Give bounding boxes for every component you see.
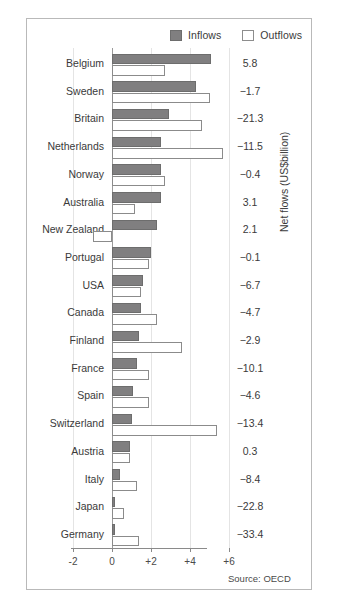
bar-outflow xyxy=(112,259,149,270)
chart-row: Canada−4.7 xyxy=(0,299,339,330)
bar-inflow xyxy=(112,303,141,314)
bar-outflow xyxy=(112,508,124,519)
category-label: USA xyxy=(0,279,104,291)
chart-row: Austria0.3 xyxy=(0,438,339,469)
net-flow-value: −0.1 xyxy=(225,251,275,263)
x-axis-tick-label: +6 xyxy=(214,556,244,567)
category-label: Finland xyxy=(0,334,104,346)
category-label: New Zealand xyxy=(0,223,104,235)
bar-outflow xyxy=(112,148,223,159)
bar-outflow xyxy=(112,342,182,353)
net-flow-value: −13.4 xyxy=(225,417,275,429)
net-flow-value: −4.6 xyxy=(225,389,275,401)
x-axis-tick-label: -2 xyxy=(58,556,88,567)
category-label: Austria xyxy=(0,445,104,457)
net-flow-value: −4.7 xyxy=(225,306,275,318)
bar-inflow xyxy=(112,247,151,258)
category-label: Sweden xyxy=(0,85,104,97)
bar-outflow xyxy=(112,65,165,76)
bar-inflow xyxy=(112,192,161,203)
bar-outflow xyxy=(112,425,217,436)
bar-outflow xyxy=(112,93,210,104)
bar-outflow xyxy=(112,536,139,547)
bar-inflow xyxy=(112,358,137,369)
chart-row: Portugal−0.1 xyxy=(0,244,339,275)
bar-inflow xyxy=(112,524,115,535)
bar-inflow xyxy=(112,137,161,148)
bar-outflow xyxy=(112,120,202,131)
bar-outflow xyxy=(112,287,141,298)
category-label: Canada xyxy=(0,306,104,318)
chart-row: Italy−8.4 xyxy=(0,466,339,497)
bar-outflow xyxy=(112,176,165,187)
net-flow-value: −0.4 xyxy=(225,168,275,180)
source-note: Source: OECD xyxy=(228,573,291,584)
category-label: Italy xyxy=(0,473,104,485)
x-axis-tick-label: +2 xyxy=(136,556,166,567)
bar-inflow xyxy=(112,469,120,480)
category-label: Belgium xyxy=(0,57,104,69)
net-flow-value: 3.1 xyxy=(225,196,275,208)
category-label: Portugal xyxy=(0,251,104,263)
net-flow-value: −10.1 xyxy=(225,362,275,374)
chart-row: Belgium5.8 xyxy=(0,50,339,81)
bar-inflow xyxy=(112,441,130,452)
net-flow-value: −1.7 xyxy=(225,85,275,97)
net-flow-value: −21.3 xyxy=(225,112,275,124)
bar-inflow xyxy=(112,386,133,397)
y-axis-caption: Net flows (US$billion) xyxy=(278,132,290,232)
category-label: Norway xyxy=(0,168,104,180)
net-flow-value: −22.8 xyxy=(225,500,275,512)
chart-row: Germany−33.4 xyxy=(0,521,339,552)
bar-chart-plot: -20+2+4+6 Belgium5.8Sweden−1.7Britain−21… xyxy=(0,0,339,611)
category-label: Britain xyxy=(0,112,104,124)
bar-outflow xyxy=(112,204,135,215)
bar-outflow xyxy=(93,231,113,242)
bar-inflow xyxy=(112,497,115,508)
net-flow-value: −11.5 xyxy=(225,140,275,152)
chart-row: Sweden−1.7 xyxy=(0,78,339,109)
bar-outflow xyxy=(112,370,149,381)
net-flow-value: −33.4 xyxy=(225,528,275,540)
bar-outflow xyxy=(112,481,137,492)
category-label: Australia xyxy=(0,196,104,208)
chart-row: Spain−4.6 xyxy=(0,382,339,413)
bar-inflow xyxy=(112,54,211,65)
chart-row: France−10.1 xyxy=(0,355,339,386)
category-label: France xyxy=(0,362,104,374)
category-label: Spain xyxy=(0,389,104,401)
net-flow-value: −2.9 xyxy=(225,334,275,346)
bar-inflow xyxy=(112,275,143,286)
bar-inflow xyxy=(112,81,196,92)
chart-row: USA−6.7 xyxy=(0,272,339,303)
bar-inflow xyxy=(112,331,139,342)
net-flow-value: 2.1 xyxy=(225,223,275,235)
bar-inflow xyxy=(112,109,169,120)
net-flow-value: 0.3 xyxy=(225,445,275,457)
net-flow-value: −6.7 xyxy=(225,279,275,291)
bar-inflow xyxy=(112,220,157,231)
x-axis-tick-label: +4 xyxy=(175,556,205,567)
bar-outflow xyxy=(112,453,130,464)
category-label: Japan xyxy=(0,500,104,512)
chart-row: Japan−22.8 xyxy=(0,493,339,524)
x-axis-tick-label: 0 xyxy=(97,556,127,567)
chart-row: Finland−2.9 xyxy=(0,327,339,358)
bar-inflow xyxy=(112,164,161,175)
net-flow-value: 5.8 xyxy=(225,57,275,69)
category-label: Germany xyxy=(0,528,104,540)
bar-outflow xyxy=(112,397,149,408)
category-label: Switzerland xyxy=(0,417,104,429)
chart-row: Switzerland−13.4 xyxy=(0,410,339,441)
category-label: Netherlands xyxy=(0,140,104,152)
net-flow-value: −8.4 xyxy=(225,473,275,485)
bar-inflow xyxy=(112,414,132,425)
bar-outflow xyxy=(112,314,157,325)
